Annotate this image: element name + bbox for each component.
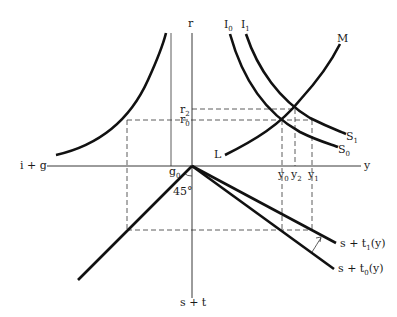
shift-arrow xyxy=(312,238,321,252)
S1-label: S1 xyxy=(346,130,358,145)
I1-label: I1 xyxy=(241,18,250,33)
y2-label: y2 xyxy=(290,168,302,183)
I0-label: I0 xyxy=(224,18,233,33)
r-axis-label: r xyxy=(188,17,194,30)
S0-label: S0 xyxy=(338,143,350,158)
is1-curve xyxy=(246,34,346,134)
y1-label: y1 xyxy=(307,168,319,183)
lm-curve xyxy=(225,44,340,155)
st0-label: s + t0(y) xyxy=(338,262,384,277)
investment-government-curve xyxy=(56,33,166,155)
y0-label: y0 xyxy=(277,168,289,183)
45-degree-line xyxy=(78,166,192,280)
st-axis-label: s + t xyxy=(180,296,207,309)
st0-line xyxy=(192,166,334,269)
L-label: L xyxy=(214,148,222,161)
islm-four-quadrant-diagram: r s + t y i + g r2 r0 y0 y2 y1 g0 45° I0… xyxy=(0,0,397,317)
is0-curve xyxy=(230,34,338,147)
angle-label: 45° xyxy=(173,185,193,198)
st1-label: s + t1(y) xyxy=(340,237,386,252)
M-label: M xyxy=(337,32,348,45)
ig-axis-label: i + g xyxy=(20,159,47,172)
y-axis-label: y xyxy=(363,159,371,172)
